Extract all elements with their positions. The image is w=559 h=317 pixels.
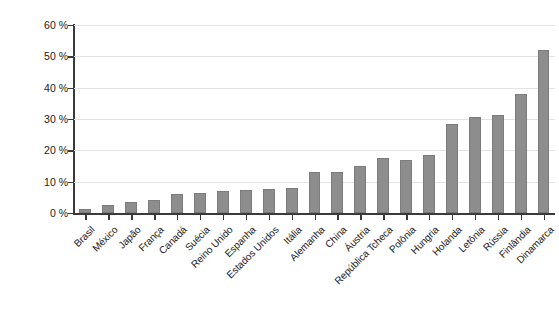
bar bbox=[377, 158, 389, 213]
bar bbox=[469, 117, 481, 213]
x-axis-tick-mark bbox=[131, 214, 132, 220]
bar bbox=[79, 209, 91, 213]
gridline bbox=[74, 25, 555, 26]
gridline bbox=[74, 56, 555, 57]
y-axis-tick-label: 20 % bbox=[26, 144, 68, 156]
x-axis-tick-mark bbox=[85, 214, 86, 220]
y-axis-tick-label: 60 % bbox=[26, 19, 68, 31]
x-axis-tick-mark bbox=[521, 214, 522, 220]
bar bbox=[286, 188, 298, 213]
x-axis-tick-mark bbox=[223, 214, 224, 220]
y-axis-tick-label: 40 % bbox=[26, 82, 68, 94]
gridline bbox=[74, 119, 555, 120]
x-axis-tick-mark bbox=[337, 214, 338, 220]
x-axis-tick-mark bbox=[269, 214, 270, 220]
x-axis-tick-mark bbox=[200, 214, 201, 220]
x-axis-tick-mark bbox=[292, 214, 293, 220]
plot-area bbox=[74, 25, 555, 213]
bar bbox=[538, 50, 550, 213]
bar bbox=[240, 190, 252, 214]
gridline bbox=[74, 88, 555, 89]
bar bbox=[515, 94, 527, 213]
bar bbox=[102, 205, 114, 213]
x-axis-tick-mark bbox=[246, 214, 247, 220]
y-axis-tick-label: 30 % bbox=[26, 113, 68, 125]
x-axis-tick-mark bbox=[544, 214, 545, 220]
bar bbox=[400, 160, 412, 213]
bar-chart-figure: Participação na matriz elétrica (%) 0 %1… bbox=[0, 0, 559, 317]
x-axis-tick-mark bbox=[452, 214, 453, 220]
x-axis-tick-mark bbox=[383, 214, 384, 220]
bar bbox=[446, 124, 458, 213]
x-axis-tick-mark bbox=[177, 214, 178, 220]
x-axis-tick-mark bbox=[475, 214, 476, 220]
x-axis-tick-mark bbox=[154, 214, 155, 220]
bar bbox=[171, 194, 183, 213]
x-axis-tick-mark bbox=[429, 214, 430, 220]
y-axis-tick-label: 10 % bbox=[26, 176, 68, 188]
bar bbox=[354, 166, 366, 213]
y-axis-tick-label: 50 % bbox=[26, 50, 68, 62]
y-axis-tick-label: 0 % bbox=[26, 207, 68, 219]
gridline bbox=[74, 150, 555, 151]
bar bbox=[194, 193, 206, 213]
bar bbox=[217, 191, 229, 213]
x-axis-tick-mark bbox=[315, 214, 316, 220]
bar bbox=[148, 200, 160, 213]
x-axis-tick-mark bbox=[108, 214, 109, 220]
bar bbox=[309, 172, 321, 213]
bar bbox=[331, 172, 343, 213]
x-axis-tick-mark bbox=[498, 214, 499, 220]
bar bbox=[492, 115, 504, 213]
x-axis-tick-mark bbox=[360, 214, 361, 220]
bar bbox=[125, 202, 137, 213]
bar bbox=[423, 155, 435, 213]
bar bbox=[263, 189, 275, 213]
x-axis-tick-mark bbox=[406, 214, 407, 220]
